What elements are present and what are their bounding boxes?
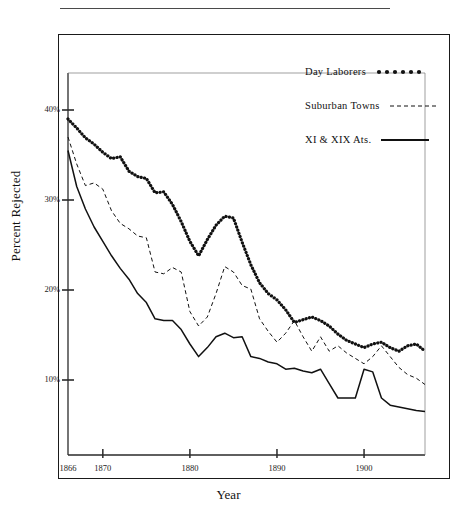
legend-entry-suburban-towns: Suburban Towns <box>305 100 444 111</box>
series-line-day-laborers <box>68 119 425 351</box>
series-line-xi-xix-ats <box>68 151 425 412</box>
x-tick-label-1870: 1870 <box>83 463 123 473</box>
chart-page: 40%30%20%10% 18661870188018901900 Percen… <box>0 0 457 513</box>
x-tick-label-1900: 1900 <box>344 463 384 473</box>
x-tick-label-1890: 1890 <box>257 463 297 473</box>
legend-entry-xi-xix-ats: XI & XIX Ats. <box>305 134 435 145</box>
legend-key-solid <box>381 135 435 145</box>
legend-label-xi-xix-ats: XI & XIX Ats. <box>305 134 371 145</box>
legend-label-suburban-towns: Suburban Towns <box>305 100 380 111</box>
y-axis-title: Percent Rejected <box>8 156 24 276</box>
legend-label-day-laborers: Day Laborers <box>305 66 366 77</box>
y-tick-label-40: 40% <box>16 104 60 114</box>
x-axis-title: Year <box>0 487 457 503</box>
x-tick-label-1880: 1880 <box>170 463 210 473</box>
y-tick-label-10: 10% <box>16 374 60 384</box>
series-layer <box>68 119 425 412</box>
legend-key-dashed-thin <box>390 101 444 111</box>
axis-layer <box>62 73 425 458</box>
y-tick-label-20: 20% <box>16 284 60 294</box>
legend-entry-day-laborers: Day Laborers <box>305 66 430 77</box>
legend-key-dotted-thick <box>376 67 430 77</box>
